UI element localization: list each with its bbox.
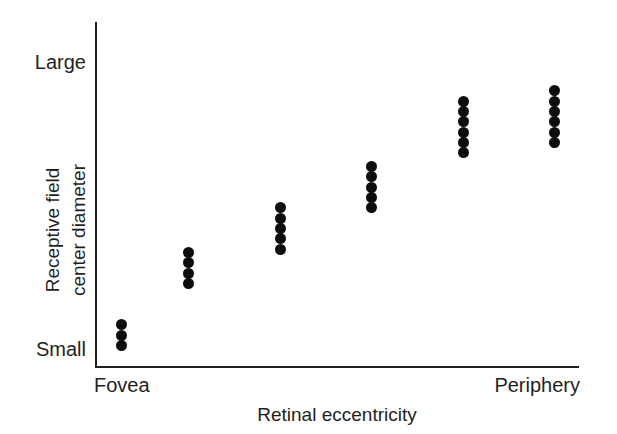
data-point-marker [549, 85, 560, 96]
data-point-marker [549, 106, 560, 117]
data-point-marker [275, 233, 286, 244]
data-point-marker [549, 137, 560, 148]
data-point-marker [458, 147, 469, 158]
plot-area [97, 22, 579, 366]
data-point-marker [275, 213, 286, 224]
data-point-marker [275, 223, 286, 234]
data-point-marker [116, 340, 127, 351]
data-point-marker [549, 127, 560, 138]
data-point-marker [458, 116, 469, 127]
data-point-marker [183, 278, 194, 289]
data-point-marker [116, 330, 127, 341]
data-point-marker [366, 192, 377, 203]
data-point-marker [366, 202, 377, 213]
data-point-marker [183, 257, 194, 268]
y-axis-title: Receptive field center diameter [20, 125, 82, 335]
y-axis-tick-label-large: Large [0, 52, 86, 72]
data-point-marker [366, 161, 377, 172]
y-axis-tick-label-small: Small [0, 339, 86, 359]
data-point-marker [458, 127, 469, 138]
data-point-marker [366, 182, 377, 193]
data-point-marker [116, 319, 127, 330]
x-axis-line [95, 366, 579, 368]
data-point-marker [183, 247, 194, 258]
x-axis-tick-label-periphery: Periphery [380, 374, 580, 396]
data-point-marker [275, 244, 286, 255]
scatter-figure: Large Small Receptive field center diame… [0, 0, 617, 434]
data-point-marker [549, 116, 560, 127]
x-axis-title: Retinal eccentricity [95, 404, 579, 426]
data-point-marker [549, 96, 560, 107]
x-axis-tick-label-fovea: Fovea [94, 374, 150, 396]
data-point-marker [458, 96, 469, 107]
data-point-marker [458, 137, 469, 148]
data-point-marker [366, 171, 377, 182]
data-point-marker [458, 106, 469, 117]
data-point-marker [183, 268, 194, 279]
data-point-marker [275, 202, 286, 213]
